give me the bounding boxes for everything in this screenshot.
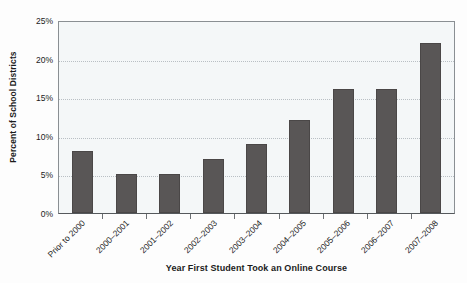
bar-slot xyxy=(61,22,104,213)
bar[interactable] xyxy=(333,89,354,213)
bar-slot xyxy=(191,22,234,213)
bar[interactable] xyxy=(289,120,310,213)
bar[interactable] xyxy=(116,174,137,213)
bar-slot xyxy=(409,22,452,213)
bar[interactable] xyxy=(420,43,441,213)
bar[interactable] xyxy=(376,89,397,213)
bar[interactable] xyxy=(246,144,267,213)
bar[interactable] xyxy=(203,159,224,213)
y-tick-label: 10% xyxy=(36,132,53,142)
bar-slot xyxy=(322,22,365,213)
plot-area xyxy=(58,21,455,214)
y-axis-title-text: Percent of School Districts xyxy=(8,51,18,162)
bars-layer xyxy=(59,22,454,213)
bar-slot xyxy=(235,22,278,213)
y-tick-label: 5% xyxy=(41,170,53,180)
bar-slot xyxy=(104,22,147,213)
bar-chart-figure: Percent of School Districts 0%5%10%15%20… xyxy=(0,0,467,283)
y-tick-label: 25% xyxy=(36,16,53,26)
y-axis-title: Percent of School Districts xyxy=(2,0,24,214)
y-tick-label: 0% xyxy=(41,209,53,219)
y-axis-tick-labels: 0%5%10%15%20%25% xyxy=(24,21,56,214)
bar-slot xyxy=(278,22,321,213)
y-tick-label: 20% xyxy=(36,55,53,65)
bar-slot xyxy=(365,22,408,213)
bar-slot xyxy=(148,22,191,213)
x-tick-label: 2007–2008 xyxy=(362,218,440,283)
x-axis-title: Year First Student Took an Online Course xyxy=(58,263,455,273)
bar[interactable] xyxy=(72,151,93,213)
y-tick-label: 15% xyxy=(36,93,53,103)
bar[interactable] xyxy=(159,174,180,213)
